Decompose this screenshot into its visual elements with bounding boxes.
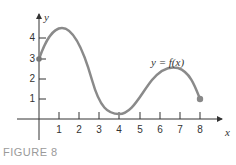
svg-text:1: 1	[56, 124, 62, 135]
svg-text:4: 4	[29, 32, 35, 43]
function-curve	[39, 28, 200, 114]
svg-text:6: 6	[157, 124, 163, 135]
svg-text:7: 7	[177, 124, 183, 135]
svg-text:4: 4	[116, 124, 122, 135]
svg-text:5: 5	[137, 124, 143, 135]
svg-text:3: 3	[29, 53, 35, 64]
svg-text:2: 2	[29, 73, 35, 84]
function-graph: x y 1 2 3 4 5 6 7 8 1 2 3 4 y = f(x	[0, 0, 236, 165]
y-axis-label: y	[43, 11, 49, 23]
svg-text:1: 1	[29, 93, 35, 104]
svg-text:8: 8	[197, 124, 203, 135]
svg-text:3: 3	[96, 124, 102, 135]
y-tick-labels: 1 2 3 4	[29, 32, 35, 104]
function-label: y = f(x)	[150, 56, 184, 69]
start-point	[36, 56, 42, 62]
figure-caption: FIGURE 8	[3, 146, 58, 158]
end-point	[197, 96, 203, 102]
x-axis-label: x	[224, 126, 230, 138]
x-tick-labels: 1 2 3 4 5 6 7 8	[56, 124, 203, 135]
x-ticks	[59, 112, 200, 119]
svg-text:2: 2	[76, 124, 82, 135]
